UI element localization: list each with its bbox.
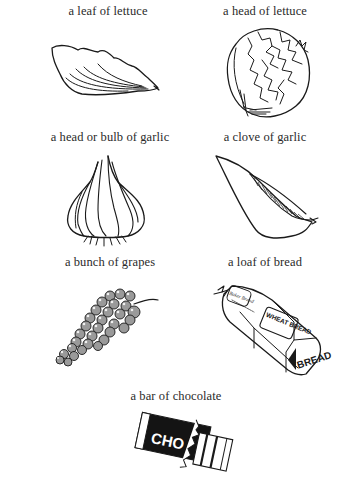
label-loaf-of-bread: a loaf of bread [205, 255, 325, 269]
grape-bunch-illustration [54, 286, 164, 372]
label-leaf-of-lettuce: a leaf of lettuce [48, 4, 168, 18]
label-head-of-lettuce: a head of lettuce [205, 4, 325, 18]
lettuce-leaf-illustration [48, 40, 163, 100]
label-bar-of-chocolate: a bar of chocolate [116, 389, 236, 403]
label-bunch-of-grapes: a bunch of grapes [50, 255, 170, 269]
bread-end-text: BREAD [296, 349, 333, 370]
chocolate-bar-illustration: CHO [130, 414, 240, 482]
garlic-clove-illustration [212, 152, 327, 242]
garlic-bulb-illustration [62, 152, 152, 247]
lettuce-head-illustration [222, 24, 314, 124]
grapes [56, 289, 140, 366]
bread-loaf-illustration: Baker Brand WHEAT BREAD BREAD [210, 282, 328, 378]
label-head-or-bulb-of-garlic: a head or bulb of garlic [30, 130, 190, 144]
label-clove-of-garlic: a clove of garlic [205, 130, 325, 144]
